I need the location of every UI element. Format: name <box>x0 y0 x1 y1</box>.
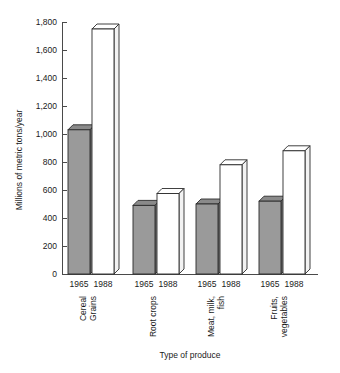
x-axis-category-label: Grains <box>88 296 98 321</box>
x-axis-category-label: Fruits, <box>269 296 279 320</box>
bar-chart: 02004006008001,0001,2001,4001,6001,800Mi… <box>0 0 340 373</box>
y-axis-tick-label: 0 <box>52 269 57 279</box>
x-axis-category-label: fish <box>216 296 226 310</box>
chart-canvas: 02004006008001,0001,2001,4001,6001,800Mi… <box>0 0 340 373</box>
bar-front-face <box>133 205 155 274</box>
x-axis-year-label: 1988 <box>159 279 178 289</box>
bar-front-face <box>68 130 90 274</box>
x-axis-year-label: 1965 <box>70 279 89 289</box>
bar-group: 19651988Root crops <box>133 189 184 338</box>
bar-1965-1[interactable] <box>68 125 95 274</box>
x-axis-title: Type of produce <box>160 350 221 360</box>
x-axis-category-label: vegetables <box>279 296 289 337</box>
x-axis-category-label: Meat, milk, <box>206 296 216 337</box>
y-axis-tick-label: 1,000 <box>36 129 58 139</box>
bar-1988-1[interactable] <box>92 24 119 274</box>
y-axis-tick-label: 1,600 <box>36 45 58 55</box>
bar-1988-3[interactable] <box>220 160 247 274</box>
x-axis-category-label: Cereal <box>78 296 88 321</box>
y-axis-tick-label: 200 <box>43 241 57 251</box>
x-axis-year-label: 1965 <box>135 279 154 289</box>
y-axis-tick-label: 1,800 <box>36 17 58 27</box>
bar-1965-3[interactable] <box>196 199 223 274</box>
x-axis-year-label: 1965 <box>198 279 217 289</box>
bar-front-face <box>220 165 242 274</box>
bar-1965-4[interactable] <box>259 196 286 274</box>
x-axis-year-label: 1988 <box>222 279 241 289</box>
x-axis-year-label: 1965 <box>261 279 280 289</box>
x-axis-year-label: 1988 <box>285 279 304 289</box>
bar-front-face <box>157 194 179 275</box>
bar-1988-4[interactable] <box>283 146 310 274</box>
bar-side-face <box>305 146 310 274</box>
y-axis-tick-label: 400 <box>43 213 57 223</box>
bar-1965-2[interactable] <box>133 200 160 274</box>
y-axis-tick-label: 1,400 <box>36 73 58 83</box>
bar-group: 19651988CerealGrains <box>68 24 119 321</box>
y-axis-title: Millions of metric tons/year <box>14 110 24 211</box>
bar-side-face <box>114 24 119 274</box>
bar-front-face <box>259 201 281 274</box>
bar-front-face <box>283 151 305 274</box>
bar-side-face <box>179 189 184 275</box>
x-axis-category-label: Root crops <box>148 296 158 337</box>
y-axis-tick-label: 1,200 <box>36 101 58 111</box>
y-axis-tick-label: 600 <box>43 185 57 195</box>
bar-front-face <box>92 29 114 274</box>
bar-side-face <box>242 160 247 274</box>
x-axis-year-label: 1988 <box>94 279 113 289</box>
bar-1988-2[interactable] <box>157 189 184 275</box>
bar-group: 19651988Meat, milk,fish <box>196 160 247 337</box>
y-axis-tick-label: 800 <box>43 157 57 167</box>
bar-group: 19651988Fruits,vegetables <box>259 146 310 337</box>
bar-front-face <box>196 204 218 274</box>
